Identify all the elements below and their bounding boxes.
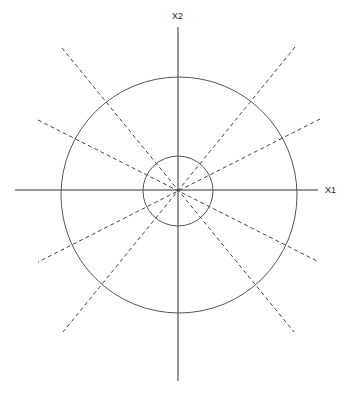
x2-label: X2 — [172, 11, 183, 21]
x1-label: X1 — [325, 185, 336, 195]
outer-circle — [61, 77, 297, 313]
diagram-canvas: X1 X2 — [0, 0, 348, 394]
diagram-svg: X1 X2 — [0, 0, 348, 394]
